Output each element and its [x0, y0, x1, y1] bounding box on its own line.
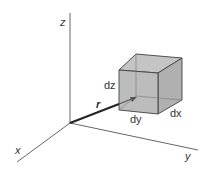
y-axis-label: y: [184, 150, 192, 162]
x-axis: [17, 123, 70, 162]
volume-element-diagram: z x y r dz dy dx: [0, 0, 209, 175]
vector-r-label: r: [96, 98, 101, 110]
x-axis-label: x: [14, 144, 21, 156]
z-axis-label: z: [59, 16, 66, 28]
dx-label: dx: [170, 107, 182, 119]
y-axis: [70, 123, 198, 150]
dz-label: dz: [104, 79, 116, 91]
dy-label: dy: [130, 113, 142, 125]
cube-front-face: [119, 70, 158, 114]
volume-element-cube: [119, 54, 182, 114]
